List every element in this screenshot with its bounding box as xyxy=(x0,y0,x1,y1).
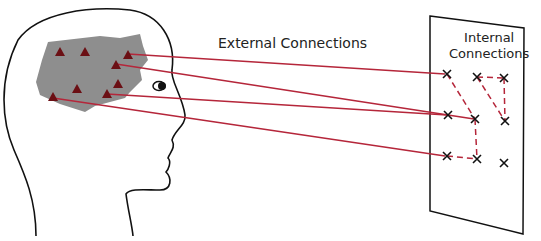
external-connections-label: External Connections xyxy=(218,35,367,51)
internal-label-line1: Internal xyxy=(449,30,529,46)
internal-connections-label: Internal Connections xyxy=(449,30,529,62)
internal-label-line2: Connections xyxy=(449,46,529,62)
